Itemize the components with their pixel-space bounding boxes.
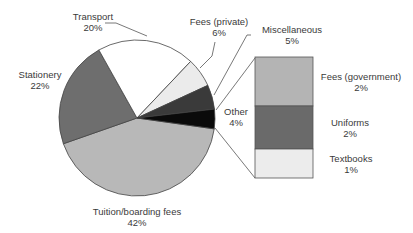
pie xyxy=(59,40,215,196)
bar-segment-uniforms xyxy=(255,106,313,149)
connector-bottom xyxy=(215,128,255,178)
label-other: Other 4% xyxy=(216,106,256,128)
bar-segment-textbooks xyxy=(255,149,313,178)
connector-top xyxy=(216,58,255,110)
breakdown-bar xyxy=(255,57,313,178)
label-fees-private: Fees (private) 6% xyxy=(184,16,254,38)
label-miscellaneous: Miscellaneous 5% xyxy=(252,24,332,46)
label-textbooks: Textbooks 1% xyxy=(318,153,384,175)
label-tuition: Tuition/boarding fees 42% xyxy=(82,206,192,228)
label-stationery: Stationery 22% xyxy=(5,69,75,91)
label-transport: Transport 20% xyxy=(58,11,128,33)
leader-fees-private xyxy=(200,42,215,68)
bar-segment-fees-government xyxy=(255,57,313,106)
label-uniforms: Uniforms 2% xyxy=(320,117,380,139)
leader-miscellaneous xyxy=(214,35,251,95)
label-fees-government: Fees (government) 2% xyxy=(316,71,406,93)
